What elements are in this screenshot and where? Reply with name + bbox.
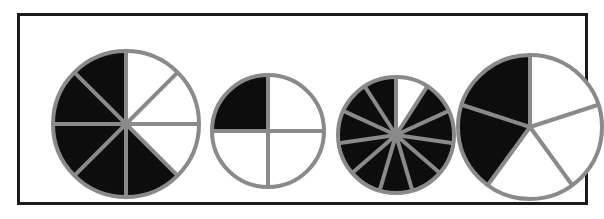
pie-1 — [47, 45, 205, 203]
pie-3-svg — [332, 71, 460, 199]
pie-2 — [206, 69, 330, 193]
pie-1-svg — [47, 45, 205, 203]
pie-2-svg — [206, 69, 330, 193]
pie-diagram-row — [20, 16, 591, 208]
pie-4 — [452, 49, 604, 205]
pie-3 — [332, 71, 460, 199]
figure-root — [0, 0, 604, 219]
figure-frame — [17, 13, 588, 205]
pie-4-svg — [452, 49, 604, 205]
